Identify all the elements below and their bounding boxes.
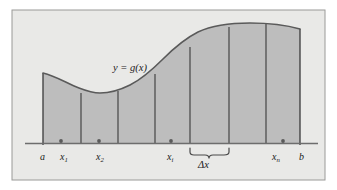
sample-dot-x1 — [59, 139, 63, 143]
curve-label-text: y = g(x) — [113, 62, 147, 73]
sample-dot-x2 — [97, 139, 101, 143]
delta-x-label-text: Δx — [198, 159, 209, 170]
figure-container: y = g(x) a x1 x2 xi Δx xn b — [0, 0, 337, 190]
sample-dot-xi — [169, 139, 173, 143]
delta-x-label: Δx — [198, 160, 209, 171]
axis-label-x2: x2 — [96, 152, 104, 162]
curve-label: y = g(x) — [113, 63, 147, 74]
axis-label-a: a — [40, 152, 45, 162]
axis-label-a-text: a — [40, 151, 45, 162]
axis-label-xn: xn — [272, 152, 280, 162]
axis-label-b-text: b — [299, 151, 304, 162]
sample-dot-xn — [281, 139, 285, 143]
axis-label-xi-sub: i — [171, 156, 173, 163]
axis-label-b: b — [299, 152, 304, 162]
axis-label-x2-sub: 2 — [100, 156, 103, 163]
axis-label-x1-sub: 1 — [64, 156, 67, 163]
axis-label-xn-sub: n — [276, 156, 279, 163]
axis-label-x1: x1 — [60, 152, 68, 162]
axis-label-xi: xi — [167, 152, 173, 162]
